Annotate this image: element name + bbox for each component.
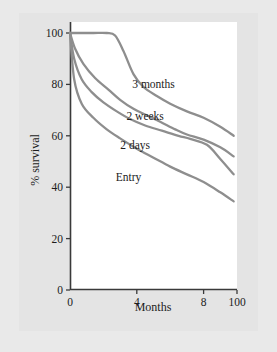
x-tick-label: 8 [201, 296, 207, 308]
series-label-2-weeks: 2 weeks [126, 110, 164, 122]
series-label-entry: Entry [116, 171, 142, 184]
x-tick-label: 0 [67, 296, 73, 308]
series-label-3-months: 3 months [132, 78, 175, 90]
survival-curve-chart: 020406080100 048100 3 months2 weeks2 day… [0, 0, 277, 352]
y-tick-label: 0 [57, 284, 63, 296]
y-tick-label: 20 [52, 233, 64, 245]
y-axis-title: % survival [28, 134, 42, 186]
y-tick-label: 100 [46, 27, 64, 39]
y-tick-label: 60 [52, 130, 64, 142]
x-axis-title: Months [135, 300, 172, 314]
series-label-2-days: 2 days [120, 139, 150, 152]
y-axis-ticks: 020406080100 [46, 27, 70, 296]
figure-root: 020406080100 048100 3 months2 weeks2 day… [0, 0, 277, 352]
y-tick-label: 40 [52, 181, 64, 193]
plot-area-background [70, 22, 237, 290]
x-tick-label: 100 [228, 296, 246, 308]
y-tick-label: 80 [52, 78, 64, 90]
